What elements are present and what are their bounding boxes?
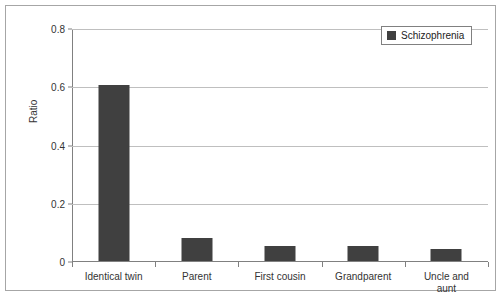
y-axis-tick-label: 0.4 (51, 140, 65, 151)
x-axis-tick-mark (155, 262, 156, 267)
bar (181, 238, 212, 261)
y-axis-tick-mark (68, 203, 72, 204)
bar (265, 246, 296, 261)
y-axis-tick-label: 0.8 (51, 24, 65, 35)
legend-label: Schizophrenia (401, 30, 464, 41)
x-axis-category-label: Parent (152, 271, 242, 283)
x-axis-tick-mark (405, 262, 406, 267)
x-axis-category-label: Identical twin (69, 271, 159, 283)
y-axis-tick-mark (68, 87, 72, 88)
bar (431, 249, 462, 261)
bar (348, 246, 379, 261)
x-axis-tick-mark (488, 262, 489, 267)
plot-area: 00.20.40.60.8 Identical twinParentFirst … (72, 29, 488, 262)
x-axis-category-label: Grandparent (318, 271, 408, 283)
x-axis-category-label: First cousin (235, 271, 325, 283)
y-axis-tick-mark (68, 145, 72, 146)
chart-frame: Ratio 00.20.40.60.8 Identical twinParent… (5, 5, 496, 291)
x-axis-line (72, 261, 488, 262)
x-axis-tick-mark (72, 262, 73, 267)
y-axis-title: Ratio (28, 100, 39, 123)
x-axis-tick-mark (322, 262, 323, 267)
gridline (72, 87, 488, 88)
y-axis-tick-label: 0 (59, 257, 65, 268)
gridline (72, 204, 488, 205)
y-axis-tick-label: 0.6 (51, 82, 65, 93)
x-axis-category-label: Uncle and aunt (401, 271, 491, 295)
legend-swatch-icon (387, 31, 396, 40)
y-axis-tick-mark (68, 29, 72, 30)
x-axis-tick-mark (238, 262, 239, 267)
bar (98, 85, 129, 261)
gridline (72, 146, 488, 147)
y-axis-tick-label: 0.2 (51, 198, 65, 209)
chart-legend[interactable]: Schizophrenia (381, 26, 472, 45)
